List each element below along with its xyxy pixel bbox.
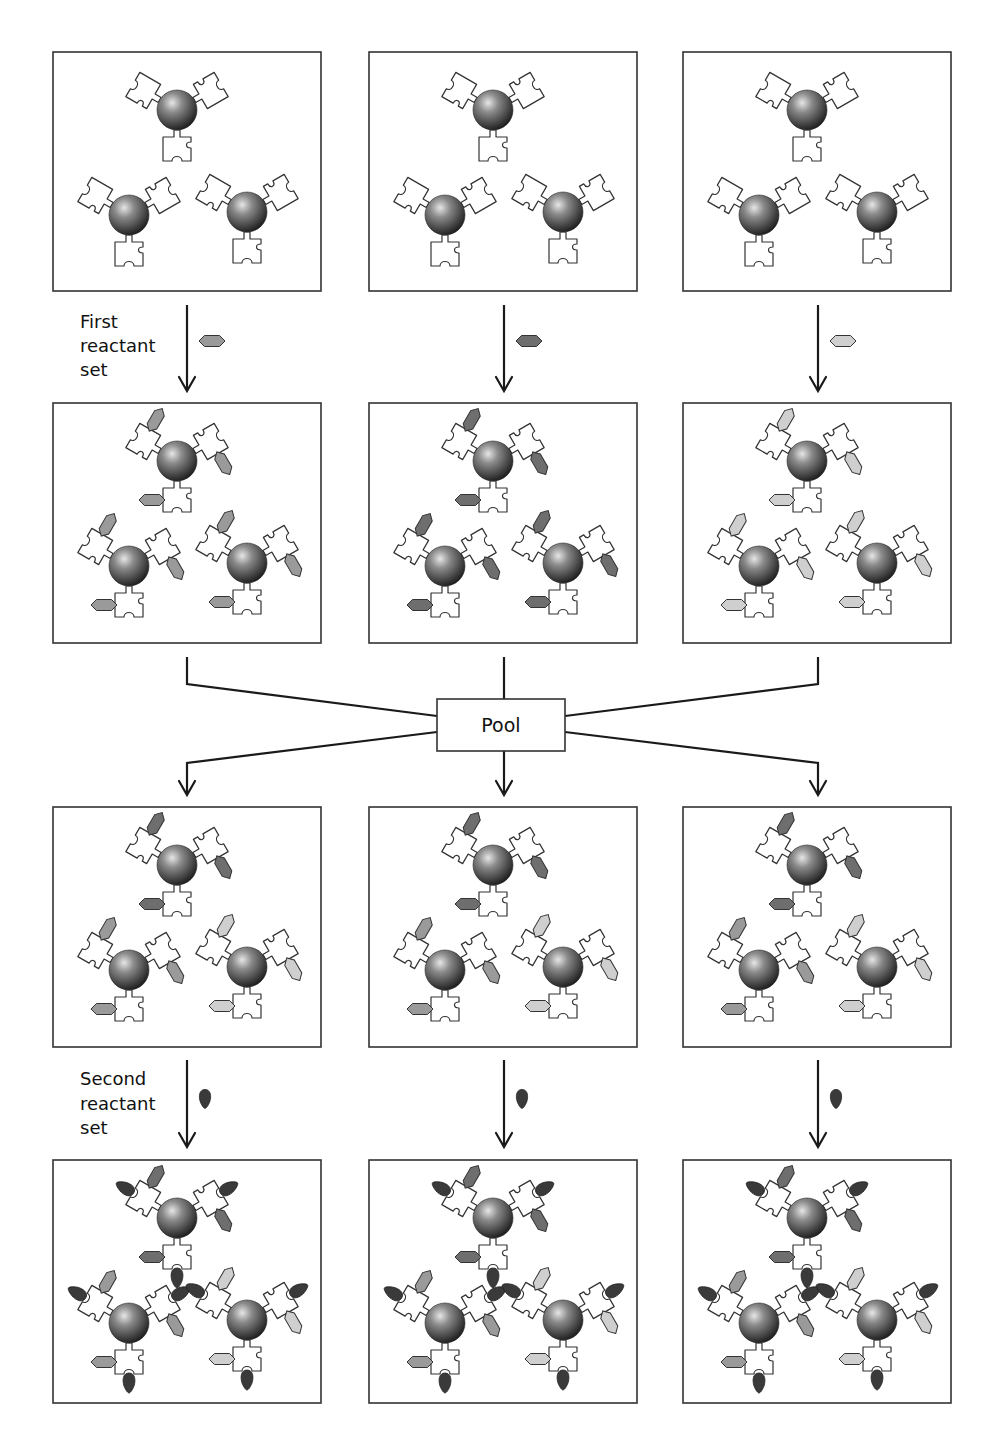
pool-label: Pool (481, 714, 520, 736)
first-reactant-icon (769, 495, 795, 506)
first-reactant-icon (139, 899, 165, 910)
first-reactant-icon (91, 600, 117, 611)
panel-frame (369, 1160, 637, 1403)
bead-sphere-icon (543, 1300, 583, 1340)
panel-frame (53, 1160, 321, 1403)
bead-sphere-icon (473, 1198, 513, 1238)
first-reactant-icon (769, 899, 795, 910)
first-reactant-icon (209, 1001, 235, 1012)
bead-sphere-icon (109, 546, 149, 586)
first-reactant-icon (91, 1357, 117, 1368)
bead-sphere-icon (157, 90, 197, 130)
bead-sphere-icon (787, 1198, 827, 1238)
first-reactant-icon (525, 1354, 551, 1365)
first-reactant-icon (455, 495, 481, 506)
bead-sphere-icon (109, 1303, 149, 1343)
panel-r1-c3 (683, 52, 951, 291)
bead-sphere-icon (473, 90, 513, 130)
second-reactant-indicator-icon (830, 1089, 841, 1108)
bead-sphere-icon (857, 543, 897, 583)
panel-r2-c2 (369, 403, 637, 643)
panel-frame (683, 1160, 951, 1403)
panel-r4-c2 (369, 1150, 643, 1403)
svg-text:Second: Second (80, 1068, 146, 1089)
first-reactant-icon (209, 1354, 235, 1365)
first-reactant-icon (455, 1252, 481, 1263)
panel-r1-c1 (53, 52, 321, 291)
bead-sphere-icon (857, 192, 897, 232)
panel-r3-c2 (369, 807, 637, 1047)
first-reactant-icon (407, 1004, 433, 1015)
panel-r3-c1 (53, 807, 321, 1047)
first-reactant-set-label: First reactant set (80, 311, 156, 380)
bead-sphere-icon (739, 950, 779, 990)
svg-text:reactant: reactant (80, 335, 156, 356)
bead-sphere-icon (787, 845, 827, 885)
bead-sphere-icon (739, 1303, 779, 1343)
svg-text:set: set (80, 359, 108, 380)
bead-sphere-icon (857, 1300, 897, 1340)
split-pool-diagram: Pool First reactant set Second reactant … (0, 0, 998, 1453)
second-reactant-indicator-icon (516, 1089, 527, 1108)
bead-sphere-icon (473, 441, 513, 481)
first-reactant-icon (407, 1357, 433, 1368)
panel-r2-c1 (53, 403, 321, 643)
bead-sphere-icon (425, 546, 465, 586)
first-reactant-icon (525, 1001, 551, 1012)
bead-sphere-icon (425, 950, 465, 990)
bead-sphere-icon (109, 950, 149, 990)
first-reactant-indicator-icon (516, 336, 542, 347)
second-reactant-indicator-icon (199, 1089, 210, 1108)
bead-sphere-icon (473, 845, 513, 885)
first-reactant-icon (139, 495, 165, 506)
bead-sphere-icon (787, 90, 827, 130)
first-reactant-icon (139, 1252, 165, 1263)
first-reactant-icon (455, 899, 481, 910)
first-reactant-icon (839, 1354, 865, 1365)
bead-sphere-icon (109, 195, 149, 235)
panel-r4-c3 (683, 1150, 957, 1403)
bead-sphere-icon (739, 195, 779, 235)
first-reactant-icon (721, 1004, 747, 1015)
bead-sphere-icon (787, 441, 827, 481)
bead-sphere-icon (739, 546, 779, 586)
svg-text:reactant: reactant (80, 1093, 156, 1114)
bead-sphere-icon (157, 845, 197, 885)
first-reactant-icon (839, 597, 865, 608)
bead-sphere-icon (227, 192, 267, 232)
first-reactant-arrows (179, 305, 826, 391)
bead-sphere-icon (425, 1303, 465, 1343)
bead-sphere-icon (543, 543, 583, 583)
pool-junction: Pool (179, 657, 826, 795)
second-reactant-arrows (179, 1060, 826, 1147)
bead-sphere-icon (543, 947, 583, 987)
bead-sphere-icon (227, 543, 267, 583)
first-reactant-icon (407, 600, 433, 611)
panel-frame (369, 52, 637, 291)
bead-sphere-icon (425, 195, 465, 235)
panel-r3-c3 (683, 807, 951, 1047)
second-reactant-set-label: Second reactant set (80, 1068, 156, 1138)
first-reactant-icon (525, 597, 551, 608)
bead-sphere-icon (227, 947, 267, 987)
panel-frame (683, 52, 951, 291)
panel-r1-c2 (369, 52, 637, 291)
svg-text:set: set (80, 1117, 108, 1138)
bead-sphere-icon (543, 192, 583, 232)
first-reactant-icon (769, 1252, 795, 1263)
first-reactant-icon (209, 597, 235, 608)
first-reactant-icon (839, 1001, 865, 1012)
svg-text:First: First (80, 311, 118, 332)
bead-sphere-icon (157, 441, 197, 481)
first-reactant-indicator-icon (199, 336, 225, 347)
panel-r4-c1 (53, 1150, 327, 1403)
bead-sphere-icon (857, 947, 897, 987)
bead-sphere-icon (227, 1300, 267, 1340)
bead-sphere-icon (157, 1198, 197, 1238)
first-reactant-indicator-icon (830, 336, 856, 347)
first-reactant-icon (91, 1004, 117, 1015)
first-reactant-icon (721, 600, 747, 611)
panel-r2-c3 (683, 403, 951, 643)
panel-frame (53, 52, 321, 291)
first-reactant-icon (721, 1357, 747, 1368)
